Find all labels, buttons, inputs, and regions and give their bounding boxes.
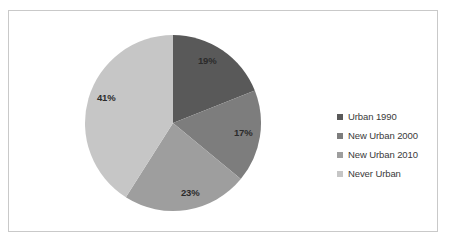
chart-frame: 19% 17% 23% 41% Urban 1990 New Urban 200… xyxy=(8,10,438,232)
pie-slice-label-never-urban: 41% xyxy=(97,92,115,103)
legend-item-label: New Urban 2010 xyxy=(348,149,418,160)
legend-item-never-urban[interactable]: Never Urban xyxy=(337,164,437,183)
pie-slices xyxy=(85,35,261,211)
legend-item-label: Urban 1990 xyxy=(348,111,397,122)
legend-item-new-urban-2010[interactable]: New Urban 2010 xyxy=(337,145,437,164)
square-marker-icon xyxy=(337,171,343,177)
pie-chart-plot-area: 19% 17% 23% 41% Urban 1990 New Urban 200… xyxy=(9,11,439,233)
pie-chart-graphic xyxy=(80,30,266,216)
legend-item-new-urban-2000[interactable]: New Urban 2000 xyxy=(337,126,437,145)
pie-slice-label-new-urban-2010: 23% xyxy=(181,187,199,198)
square-marker-icon xyxy=(337,114,343,120)
legend-item-label: Never Urban xyxy=(348,168,401,179)
chart-legend: Urban 1990 New Urban 2000 New Urban 2010… xyxy=(337,107,437,183)
legend-item-urban-1990[interactable]: Urban 1990 xyxy=(337,107,437,126)
square-marker-icon xyxy=(337,152,343,158)
pie-slice-label-urban-1990: 19% xyxy=(198,55,216,66)
square-marker-icon xyxy=(337,133,343,139)
pie-slice-label-new-urban-2000: 17% xyxy=(234,127,252,138)
legend-item-label: New Urban 2000 xyxy=(348,130,418,141)
